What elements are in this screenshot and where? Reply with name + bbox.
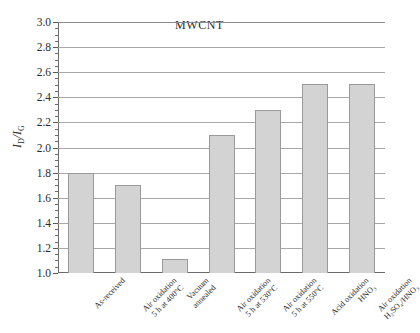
bar[interactable] [162,259,188,273]
y-tick-label: 1.6 [37,192,51,204]
bar-series [58,22,385,273]
bar-slot [58,22,105,273]
y-tick-label: 1.8 [37,167,51,179]
bar-slot [105,22,152,273]
y-tick-label: 1.0 [37,267,51,279]
x-axis-label: Air oxidation5 h at 550°C [281,276,325,320]
x-axis-labels: As-receivedAir oxidation5 h at 400°CVacu… [58,276,385,333]
bar[interactable] [349,84,375,274]
bar[interactable] [68,173,94,273]
x-axis-label: Air oxidationH₂SO₄/HNO₃ [375,276,420,321]
y-tick-label: 2.2 [37,116,51,128]
bar-slot [198,22,245,273]
bar-slot [151,22,198,273]
y-tick-label: 2.8 [37,41,51,53]
y-tick-major [53,273,58,274]
y-tick-label: 2.6 [37,66,51,78]
x-axis-label-line: As-received [93,276,128,311]
plot-area: 3.02.82.62.42.22.01.81.61.41.21.0 [58,22,385,273]
y-tick-label: 2.4 [37,91,51,103]
bar-slot [245,22,292,273]
y-tick-label: 1.4 [37,217,51,229]
bar[interactable] [209,135,235,273]
y-tick-label: 1.2 [37,242,51,254]
x-axis-label: Acid oxidationHNO₃ [329,276,377,324]
bar[interactable] [255,110,281,273]
bar-slot [338,22,385,273]
y-axis-title-text: ID/IG [10,125,24,148]
x-axis-label: Vacuumannealed [183,276,217,310]
bar[interactable] [115,185,141,273]
x-axis-label: Air oxidation5 h at 400°C [141,276,185,320]
bar-slot [292,22,339,273]
y-tick-label: 2.0 [37,142,51,154]
x-axis-label: As-received [93,276,128,311]
x-axis-label: Air oxidation5 h at 530°C [234,276,278,320]
y-tick-label: 3.0 [37,16,51,28]
bar[interactable] [302,84,328,274]
y-axis-title: ID/IG [10,125,26,148]
